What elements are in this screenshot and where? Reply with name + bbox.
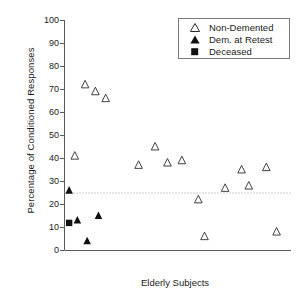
data-point bbox=[178, 156, 186, 164]
data-point bbox=[95, 211, 103, 219]
chart-legend: Non-Demented Dem. at Retest Deceased bbox=[178, 18, 290, 59]
data-point bbox=[273, 228, 281, 236]
data-point bbox=[74, 216, 82, 224]
data-point bbox=[201, 232, 209, 240]
filled-square-icon bbox=[189, 46, 201, 57]
data-point bbox=[164, 159, 172, 167]
open-triangle-icon bbox=[189, 22, 201, 33]
legend-label-dem-at-retest: Dem. at Retest bbox=[209, 34, 272, 45]
data-point bbox=[262, 163, 270, 171]
data-point bbox=[102, 94, 110, 102]
data-point bbox=[151, 142, 159, 150]
data-point bbox=[195, 195, 203, 203]
y-axis-ticks bbox=[60, 21, 65, 251]
data-point bbox=[245, 182, 253, 190]
data-point bbox=[221, 184, 229, 192]
data-point bbox=[66, 220, 72, 226]
legend-entry-deceased: Deceased bbox=[179, 45, 291, 58]
data-point bbox=[135, 161, 143, 169]
legend-label-non-demented: Non-Demented bbox=[209, 22, 273, 33]
legend-label-deceased: Deceased bbox=[209, 46, 252, 57]
data-point bbox=[83, 237, 91, 245]
data-point bbox=[65, 186, 73, 194]
data-point bbox=[81, 80, 89, 88]
data-point bbox=[92, 87, 100, 95]
data-point bbox=[71, 152, 79, 160]
filled-triangle-icon bbox=[189, 34, 201, 45]
data-marker-group bbox=[65, 80, 280, 244]
x-axis-title: Elderly Subjects bbox=[55, 277, 295, 288]
data-point bbox=[238, 165, 246, 173]
scatter-chart-figure: Percentage of Conditioned Responses 100 … bbox=[0, 0, 304, 297]
